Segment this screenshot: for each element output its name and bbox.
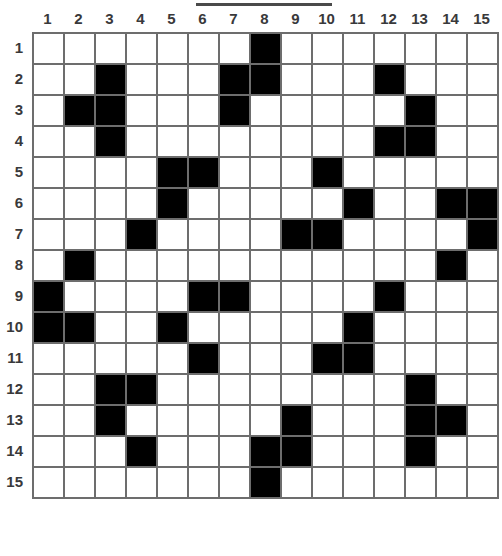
grid-cell-r13-c13[interactable]: [406, 406, 437, 437]
grid-cell-r6-c7[interactable]: [220, 189, 251, 220]
grid-cell-r9-c5[interactable]: [158, 282, 189, 313]
grid-cell-r12-c3[interactable]: [96, 375, 127, 406]
grid-cell-r13-c11[interactable]: [344, 406, 375, 437]
grid-cell-r2-c4[interactable]: [127, 65, 158, 96]
grid-cell-r15-c9[interactable]: [282, 468, 313, 499]
grid-cell-r14-c3[interactable]: [96, 437, 127, 468]
grid-cell-r6-c8[interactable]: [251, 189, 282, 220]
grid-cell-r8-c8[interactable]: [251, 251, 282, 282]
grid-cell-r14-c15[interactable]: [468, 437, 499, 468]
grid-cell-r12-c5[interactable]: [158, 375, 189, 406]
grid-cell-r7-c12[interactable]: [375, 220, 406, 251]
grid-cell-r2-c12[interactable]: [375, 65, 406, 96]
grid-cell-r2-c6[interactable]: [189, 65, 220, 96]
grid-cell-r14-c2[interactable]: [65, 437, 96, 468]
grid-cell-r8-c7[interactable]: [220, 251, 251, 282]
grid-cell-r6-c10[interactable]: [313, 189, 344, 220]
grid-cell-r11-c10[interactable]: [313, 344, 344, 375]
grid-cell-r7-c9[interactable]: [282, 220, 313, 251]
grid-cell-r3-c8[interactable]: [251, 96, 282, 127]
grid-cell-r10-c15[interactable]: [468, 313, 499, 344]
grid-cell-r5-c7[interactable]: [220, 158, 251, 189]
grid-cell-r10-c8[interactable]: [251, 313, 282, 344]
grid-cell-r10-c14[interactable]: [437, 313, 468, 344]
grid-cell-r7-c8[interactable]: [251, 220, 282, 251]
grid-cell-r1-c14[interactable]: [437, 34, 468, 65]
grid-cell-r4-c2[interactable]: [65, 127, 96, 158]
grid-cell-r10-c7[interactable]: [220, 313, 251, 344]
grid-cell-r10-c13[interactable]: [406, 313, 437, 344]
grid-cell-r8-c11[interactable]: [344, 251, 375, 282]
grid-cell-r13-c9[interactable]: [282, 406, 313, 437]
grid-cell-r6-c13[interactable]: [406, 189, 437, 220]
grid-cell-r3-c2[interactable]: [65, 96, 96, 127]
grid-cell-r15-c3[interactable]: [96, 468, 127, 499]
grid-cell-r6-c3[interactable]: [96, 189, 127, 220]
grid-cell-r6-c6[interactable]: [189, 189, 220, 220]
grid-cell-r12-c6[interactable]: [189, 375, 220, 406]
grid-cell-r4-c11[interactable]: [344, 127, 375, 158]
grid-cell-r3-c13[interactable]: [406, 96, 437, 127]
grid-cell-r1-c10[interactable]: [313, 34, 344, 65]
grid-cell-r6-c9[interactable]: [282, 189, 313, 220]
grid-cell-r15-c8[interactable]: [251, 468, 282, 499]
grid-cell-r9-c14[interactable]: [437, 282, 468, 313]
grid-cell-r4-c9[interactable]: [282, 127, 313, 158]
grid-cell-r15-c6[interactable]: [189, 468, 220, 499]
grid-cell-r13-c4[interactable]: [127, 406, 158, 437]
grid-cell-r5-c4[interactable]: [127, 158, 158, 189]
grid-cell-r13-c6[interactable]: [189, 406, 220, 437]
grid-cell-r5-c1[interactable]: [34, 158, 65, 189]
grid-cell-r1-c11[interactable]: [344, 34, 375, 65]
grid-cell-r3-c12[interactable]: [375, 96, 406, 127]
grid-cell-r13-c12[interactable]: [375, 406, 406, 437]
grid-cell-r8-c3[interactable]: [96, 251, 127, 282]
grid-cell-r2-c7[interactable]: [220, 65, 251, 96]
grid-cell-r1-c3[interactable]: [96, 34, 127, 65]
grid-cell-r10-c4[interactable]: [127, 313, 158, 344]
grid-cell-r9-c13[interactable]: [406, 282, 437, 313]
grid-cell-r12-c10[interactable]: [313, 375, 344, 406]
grid-cell-r1-c4[interactable]: [127, 34, 158, 65]
grid-cell-r5-c12[interactable]: [375, 158, 406, 189]
grid-cell-r4-c12[interactable]: [375, 127, 406, 158]
grid-cell-r14-c5[interactable]: [158, 437, 189, 468]
grid-cell-r13-c5[interactable]: [158, 406, 189, 437]
grid-cell-r11-c2[interactable]: [65, 344, 96, 375]
grid-cell-r11-c8[interactable]: [251, 344, 282, 375]
grid-cell-r12-c2[interactable]: [65, 375, 96, 406]
grid-cell-r12-c13[interactable]: [406, 375, 437, 406]
grid-cell-r15-c12[interactable]: [375, 468, 406, 499]
grid-cell-r13-c1[interactable]: [34, 406, 65, 437]
grid-cell-r11-c5[interactable]: [158, 344, 189, 375]
grid-cell-r12-c9[interactable]: [282, 375, 313, 406]
grid-cell-r10-c10[interactable]: [313, 313, 344, 344]
grid-cell-r12-c14[interactable]: [437, 375, 468, 406]
grid-cell-r1-c1[interactable]: [34, 34, 65, 65]
grid-cell-r1-c9[interactable]: [282, 34, 313, 65]
grid-cell-r10-c2[interactable]: [65, 313, 96, 344]
grid-cell-r14-c13[interactable]: [406, 437, 437, 468]
grid-cell-r11-c11[interactable]: [344, 344, 375, 375]
grid-cell-r7-c15[interactable]: [468, 220, 499, 251]
grid-cell-r2-c3[interactable]: [96, 65, 127, 96]
grid-cell-r9-c15[interactable]: [468, 282, 499, 313]
grid-cell-r10-c3[interactable]: [96, 313, 127, 344]
grid-cell-r8-c1[interactable]: [34, 251, 65, 282]
grid-cell-r4-c4[interactable]: [127, 127, 158, 158]
grid-cell-r14-c14[interactable]: [437, 437, 468, 468]
grid-cell-r9-c4[interactable]: [127, 282, 158, 313]
grid-cell-r12-c15[interactable]: [468, 375, 499, 406]
grid-cell-r15-c1[interactable]: [34, 468, 65, 499]
grid-cell-r12-c4[interactable]: [127, 375, 158, 406]
grid-cell-r9-c11[interactable]: [344, 282, 375, 313]
grid-cell-r3-c5[interactable]: [158, 96, 189, 127]
grid-cell-r10-c5[interactable]: [158, 313, 189, 344]
grid-cell-r6-c12[interactable]: [375, 189, 406, 220]
grid-cell-r5-c14[interactable]: [437, 158, 468, 189]
grid-cell-r1-c8[interactable]: [251, 34, 282, 65]
grid-cell-r2-c10[interactable]: [313, 65, 344, 96]
grid-cell-r11-c12[interactable]: [375, 344, 406, 375]
grid-cell-r6-c15[interactable]: [468, 189, 499, 220]
grid-cell-r3-c9[interactable]: [282, 96, 313, 127]
